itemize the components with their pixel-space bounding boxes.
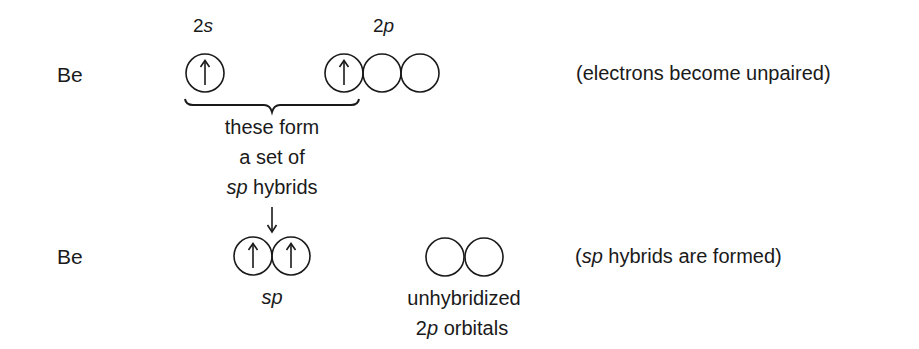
note-rest: hybrids are formed) (603, 245, 782, 267)
orbital-sp-2 (272, 237, 310, 275)
brace-caption-line3: sp hybrids (226, 177, 317, 197)
brace-caption-line2: a set of (239, 147, 305, 167)
orbital-2p-3 (401, 54, 439, 92)
orbital-unhybridized-2p-1 (426, 238, 464, 276)
unhybridized-label-line1: unhybridized (407, 288, 520, 308)
orbital-label-2s-letter: s (204, 15, 214, 36)
unhybridized-label-number: 2 (416, 317, 427, 339)
orbital-2p-1 (325, 54, 363, 92)
orbital-label-2p-number: 2 (373, 15, 384, 36)
brace-caption-hybrids: hybrids (248, 176, 318, 198)
curly-brace (185, 99, 359, 112)
down-arrow-icon (268, 207, 277, 232)
sp-label: sp (261, 287, 282, 307)
note-electrons-unpaired: (electrons become unpaired) (576, 63, 831, 83)
orbital-label-2p-letter: p (384, 15, 395, 36)
brace-caption-sp: sp (226, 176, 247, 198)
unhybridized-label-p: p (427, 317, 438, 339)
note-open-paren: ( (575, 245, 582, 267)
orbital-label-2s: 2s (193, 16, 213, 35)
brace-caption-line1: these form (225, 117, 319, 137)
element-label-row1: Be (57, 64, 83, 85)
note-sp-hybrids-formed: (sp hybrids are formed) (575, 246, 782, 266)
element-label-row2: Be (57, 246, 83, 267)
unhybridized-label-orbitals: orbitals (438, 317, 508, 339)
orbital-2p-2 (363, 54, 401, 92)
orbital-2s (186, 54, 224, 92)
orbital-label-2s-number: 2 (193, 15, 204, 36)
orbital-unhybridized-2p-2 (465, 238, 503, 276)
unhybridized-label-line2: 2p orbitals (416, 318, 508, 338)
orbital-label-2p: 2p (373, 16, 394, 35)
note-sp: sp (582, 245, 603, 267)
orbital-sp-1 (234, 237, 272, 275)
